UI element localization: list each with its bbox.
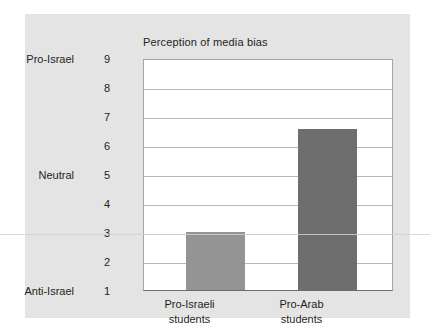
x-axis-category-label: Pro-Israelistudents <box>135 297 245 327</box>
y-axis-tick-label: 1 <box>84 286 110 297</box>
x-axis-label-line: Pro-Arab <box>247 297 357 312</box>
chart-page: Perception of media bias 123456789 Pro-I… <box>0 0 430 336</box>
x-axis-label-line: students <box>135 312 245 327</box>
y-axis-category-label: Pro-Israel <box>0 54 74 65</box>
y-axis-category-label: Neutral <box>0 170 74 181</box>
y-axis-tick-label: 7 <box>84 112 110 123</box>
plot-area <box>143 59 393 291</box>
bar <box>298 129 357 290</box>
y-axis-tick-label: 9 <box>84 54 110 65</box>
y-axis-tick-label: 4 <box>84 199 110 210</box>
y-axis-category-label: Anti-Israel <box>0 286 74 297</box>
bar <box>186 232 245 290</box>
y-axis-tick-label: 6 <box>84 141 110 152</box>
x-axis-category-label: Pro-Arabstudents <box>247 297 357 327</box>
y-axis-tick-label: 3 <box>84 228 110 239</box>
chart-title: Perception of media bias <box>143 36 268 48</box>
y-axis-tick-label: 2 <box>84 257 110 268</box>
x-axis-label-line: students <box>247 312 357 327</box>
y-axis-tick-label: 8 <box>84 83 110 94</box>
y-axis-tick-label: 5 <box>84 170 110 181</box>
bars-layer <box>144 60 392 290</box>
x-axis-label-line: Pro-Israeli <box>135 297 245 312</box>
chart-panel: Perception of media bias 123456789 Pro-I… <box>25 14 410 318</box>
